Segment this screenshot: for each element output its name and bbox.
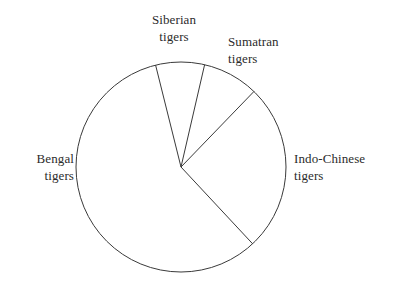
pie-label-indo-chinese-line-1: Indo-Chinese xyxy=(294,150,365,167)
pie-label-bengal: Bengal tigers xyxy=(2,150,74,184)
pie-label-bengal-line-1: Bengal xyxy=(2,150,74,167)
pie-label-indo-chinese-line-2: tigers xyxy=(294,167,365,184)
pie-label-sumatran-line-2: tigers xyxy=(228,50,279,67)
pie-label-sumatran-line-1: Sumatran xyxy=(228,33,279,50)
pie-label-sumatran: Sumatran tigers xyxy=(228,33,279,67)
pie-label-indo-chinese: Indo-Chinese tigers xyxy=(294,150,365,184)
pie-label-siberian: Siberian tigers xyxy=(122,11,226,45)
pie-chart: Siberian tigers Sumatran tigers Bengal t… xyxy=(0,0,412,297)
pie-label-siberian-line-1: Siberian xyxy=(122,11,226,28)
pie-label-siberian-line-2: tigers xyxy=(122,28,226,45)
pie-label-bengal-line-2: tigers xyxy=(2,167,74,184)
